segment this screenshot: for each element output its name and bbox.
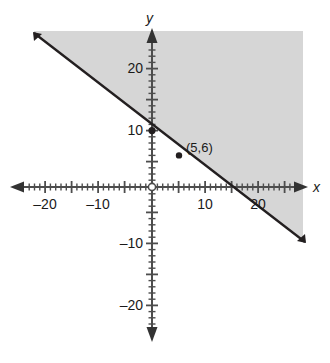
- x-tick-label-20: 20: [250, 196, 266, 212]
- y-axis-down-arrow: [147, 327, 158, 342]
- coordinate-plane-figure: x y –20 –10 10 20 20 10 –10 –20 (5,6): [0, 0, 330, 363]
- x-tick-label-neg20: –20: [33, 196, 56, 212]
- x-tick-label-10: 10: [197, 196, 213, 212]
- y-tick-label-neg10: –10: [112, 235, 143, 251]
- y-axis-label: y: [146, 10, 153, 26]
- y-tick-label-10: 10: [119, 122, 143, 138]
- point-label-5-6: (5,6): [186, 140, 213, 155]
- x-axis-left-arrow: [10, 182, 24, 193]
- x-axis-label: x: [313, 179, 320, 195]
- origin-marker: [148, 183, 155, 190]
- y-tick-label-20: 20: [119, 60, 143, 76]
- y-tick-label-neg20: –20: [112, 297, 143, 313]
- y-intercept-point: [148, 127, 155, 134]
- labeled-point: [176, 152, 182, 158]
- x-tick-label-neg10: –10: [86, 196, 109, 212]
- graph-canvas: [0, 0, 330, 363]
